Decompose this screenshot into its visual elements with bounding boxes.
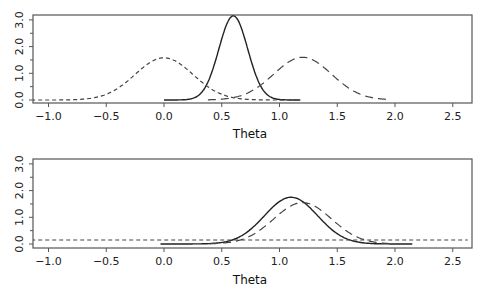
x-tick-label: 2.5 — [444, 255, 462, 268]
x-tick-label: −0.5 — [93, 255, 120, 268]
y-tick-label: 2.0 — [13, 38, 26, 56]
y-tick-label: 2.0 — [13, 182, 26, 200]
x-tick-label: 1.5 — [329, 110, 347, 123]
plot-frame — [33, 15, 472, 103]
x-axis-label: Theta — [232, 127, 267, 141]
x-tick-label: 2.0 — [386, 255, 404, 268]
series-long-dash — [208, 57, 389, 100]
x-tick-label: 1.0 — [271, 255, 289, 268]
series-solid — [161, 197, 413, 244]
chart-panel-bottom: −1.0−0.50.00.51.01.52.02.50.01.02.03.0Th… — [13, 155, 472, 287]
x-tick-label: 0.0 — [155, 110, 173, 123]
chart-canvas: −1.0−0.50.00.51.01.52.02.50.01.02.03.0Th… — [0, 0, 488, 296]
x-tick-label: −1.0 — [35, 110, 62, 123]
x-tick-label: 1.5 — [329, 255, 347, 268]
x-tick-label: 0.5 — [213, 110, 231, 123]
x-tick-label: 0.5 — [213, 255, 231, 268]
y-tick-label: 0.0 — [13, 91, 26, 109]
series-short-dash — [31, 58, 300, 100]
x-tick-label: 1.0 — [271, 110, 289, 123]
x-tick-label: −0.5 — [93, 110, 120, 123]
y-tick-label: 0.0 — [13, 235, 26, 253]
series-solid — [164, 16, 300, 100]
y-tick-label: 1.0 — [13, 65, 26, 83]
y-tick-label: 1.0 — [13, 209, 26, 227]
x-tick-label: 2.0 — [386, 110, 404, 123]
x-tick-label: −1.0 — [35, 255, 62, 268]
x-axis-label: Theta — [232, 273, 267, 287]
chart-panel-top: −1.0−0.50.00.51.01.52.02.50.01.02.03.0Th… — [13, 11, 472, 141]
x-tick-label: 2.5 — [444, 110, 462, 123]
y-tick-label: 3.0 — [13, 11, 26, 29]
x-tick-label: 0.0 — [155, 255, 173, 268]
y-tick-label: 3.0 — [13, 155, 26, 173]
